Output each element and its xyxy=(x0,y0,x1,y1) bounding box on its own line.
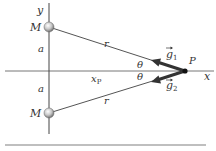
r-bottom-label: r xyxy=(104,95,110,106)
point-p-dot xyxy=(182,68,187,73)
theta-top-label: θ xyxy=(137,59,143,70)
svg-text:g: g xyxy=(166,48,173,61)
g1-label: g 1 xyxy=(166,47,177,63)
mass-top-icon xyxy=(44,22,54,32)
theta-bottom-label: θ xyxy=(137,71,143,82)
svg-text:2: 2 xyxy=(173,85,177,93)
g2-label: g 2 xyxy=(166,79,177,94)
y-axis-label: y xyxy=(36,4,44,17)
xp-label: xP xyxy=(91,73,102,86)
a-top-label: a xyxy=(38,43,44,54)
svg-text:1: 1 xyxy=(173,54,177,62)
mass-top-label: M xyxy=(29,21,42,34)
r-top-label: r xyxy=(104,38,110,49)
mass-bottom-icon xyxy=(44,108,54,118)
mass-bottom-label: M xyxy=(29,107,42,120)
point-p-label: P xyxy=(188,55,196,66)
diagram-canvas: y x M M a a r r xP θ θ P g 1 g 2 xyxy=(0,0,216,151)
x-axis-label: x xyxy=(204,70,211,83)
svg-text:g: g xyxy=(166,79,173,92)
a-bottom-label: a xyxy=(38,83,44,94)
